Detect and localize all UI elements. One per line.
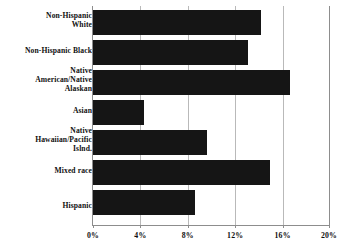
bar-hispanic <box>93 190 195 215</box>
category-label-non-hispanic-white: Non-Hispanic White <box>4 11 92 29</box>
category-label-native-hawaiian-pacific-islnd: Native Hawaiian/Pacific Islnd. <box>4 126 92 154</box>
category-label-native-american-native-alaskan: Native American/Native Alaskan <box>4 66 92 94</box>
plot-area <box>92 6 329 226</box>
xtick-mark-0 <box>93 225 94 228</box>
xtick-mark-8 <box>188 225 189 228</box>
bar-non-hispanic-black <box>93 40 248 65</box>
gridline-16pct <box>283 6 284 225</box>
category-label-hispanic: Hispanic <box>4 201 92 210</box>
xtick-label-12: 12% <box>215 231 255 240</box>
bar-native-american-native-alaskan <box>93 70 290 95</box>
bar-non-hispanic-white <box>93 10 261 35</box>
xtick-mark-20 <box>329 225 330 228</box>
gridline-20pct <box>329 6 330 225</box>
bar-chart: Non-Hispanic White Non-Hispanic Black Na… <box>0 0 339 247</box>
category-label-mixed-race: Mixed race <box>4 166 92 175</box>
bar-native-hawaiian-pacific-islnd <box>93 130 207 155</box>
xtick-label-8: 8% <box>168 231 208 240</box>
bar-mixed-race <box>93 160 270 185</box>
xtick-mark-16 <box>283 225 284 228</box>
category-label-asian: Asian <box>4 106 92 115</box>
xtick-mark-4 <box>140 225 141 228</box>
xtick-label-4: 4% <box>120 231 160 240</box>
category-label-non-hispanic-black: Non-Hispanic Black <box>4 46 92 55</box>
bar-asian <box>93 100 144 125</box>
xtick-label-20: 20% <box>309 231 339 240</box>
xtick-label-16: 16% <box>263 231 303 240</box>
xtick-mark-12 <box>235 225 236 228</box>
xtick-label-0: 0% <box>73 231 113 240</box>
gridline-12pct <box>235 6 236 225</box>
